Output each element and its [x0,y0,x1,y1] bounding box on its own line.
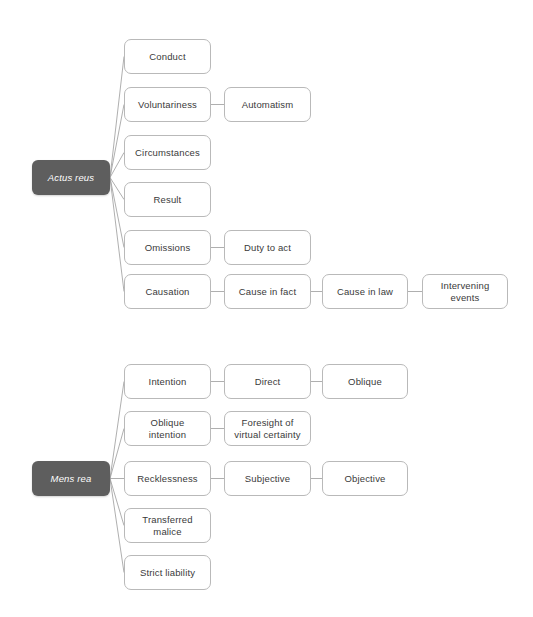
node-causation[interactable]: Causation [124,274,211,309]
connector-root-to-strict-liability [110,479,124,573]
connector-root-to-intention [110,382,124,479]
node-label: Subjective [245,473,290,485]
connector-root-to-circumstances [110,153,124,178]
node-strict-liability[interactable]: Strict liability [124,555,211,590]
node-subjective[interactable]: Subjective [224,461,311,496]
node-label: Conduct [149,51,185,63]
node-label: Voluntariness [138,99,197,111]
node-label: Circumstances [135,147,200,159]
connector-root-to-conduct [110,57,124,178]
node-label: Foresight of virtual certainty [234,417,300,441]
root-node-actus-reus[interactable]: Actus reus [32,160,110,195]
node-cause-in-law[interactable]: Cause in law [322,274,408,309]
node-result[interactable]: Result [124,182,211,217]
node-label: Result [154,194,182,206]
node-label: Oblique [348,376,382,388]
node-circumstances[interactable]: Circumstances [124,135,211,170]
node-omissions[interactable]: Omissions [124,230,211,265]
connector-root-to-result [110,178,124,200]
node-label: Cause in fact [239,286,296,298]
node-intention[interactable]: Intention [124,364,211,399]
node-conduct[interactable]: Conduct [124,39,211,74]
node-objective[interactable]: Objective [322,461,408,496]
connector-root-to-causation [110,178,124,292]
node-transferred-malice[interactable]: Transferred malice [124,508,211,543]
node-label: Omissions [145,242,191,254]
node-label: Intervening events [441,280,490,304]
node-voluntariness[interactable]: Voluntariness [124,87,211,122]
node-label: Mens rea [51,473,92,485]
connector-root-to-omissions [110,178,124,248]
node-label: Cause in law [337,286,393,298]
node-label: Intention [149,376,187,388]
node-label: Causation [145,286,189,298]
node-label: Oblique intention [149,417,186,441]
node-oblique-intention[interactable]: Oblique intention [124,411,211,446]
node-label: Objective [345,473,386,485]
root-node-mens-rea[interactable]: Mens rea [32,461,110,496]
node-label: Automatism [242,99,294,111]
node-label: Actus reus [48,172,94,184]
node-label: Direct [255,376,281,388]
connector-root-to-transferred-malice [110,479,124,526]
node-label: Strict liability [140,567,195,579]
node-cause-in-fact[interactable]: Cause in fact [224,274,311,309]
node-direct[interactable]: Direct [224,364,311,399]
node-recklessness[interactable]: Recklessness [124,461,211,496]
diagram-canvas: Actus reusConductVoluntarinessAutomatism… [0,0,533,617]
node-duty-to-act[interactable]: Duty to act [224,230,311,265]
node-label: Transferred malice [142,514,192,538]
node-foresight[interactable]: Foresight of virtual certainty [224,411,311,446]
connector-root-to-voluntariness [110,105,124,178]
node-oblique[interactable]: Oblique [322,364,408,399]
node-label: Duty to act [244,242,291,254]
node-intervening-events[interactable]: Intervening events [422,274,508,309]
connector-root-to-oblique-intention [110,429,124,479]
node-automatism[interactable]: Automatism [224,87,311,122]
node-label: Recklessness [137,473,197,485]
